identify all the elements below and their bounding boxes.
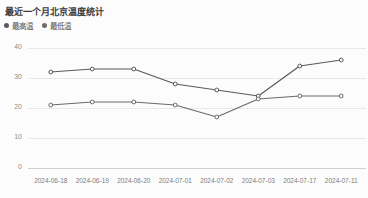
data-point[interactable]	[132, 100, 136, 104]
data-point[interactable]	[215, 115, 219, 119]
data-point[interactable]	[256, 97, 260, 101]
x-axis-tick-label: 2024-07-01	[159, 177, 192, 184]
data-point[interactable]	[298, 64, 302, 68]
legend-dot-icon	[42, 23, 47, 28]
y-axis-tick-label: 0	[4, 163, 22, 170]
data-point[interactable]	[49, 70, 53, 74]
x-axis-tick-label: 2024-06-19	[76, 177, 109, 184]
x-axis-line	[28, 168, 366, 169]
x-axis-tick-label: 2024-07-11	[325, 177, 358, 184]
data-point[interactable]	[215, 88, 219, 92]
x-axis-tick-label: 2024-07-03	[242, 177, 275, 184]
grid-line	[28, 108, 366, 109]
y-axis-tick-label: 10	[4, 133, 22, 140]
data-point[interactable]	[132, 67, 136, 71]
chart-title: 最近一个月北京温度统计	[5, 5, 104, 18]
legend-dot-icon	[4, 23, 9, 28]
chart-legend: 最高温 最低温	[4, 20, 71, 31]
y-axis-tick-label: 20	[4, 103, 22, 110]
data-point[interactable]	[173, 103, 177, 107]
data-point[interactable]	[49, 103, 53, 107]
y-axis-tick-label: 30	[4, 73, 22, 80]
x-axis-tick-label: 2024-06-18	[34, 177, 67, 184]
legend-label-min-temp: 最低温	[50, 20, 71, 31]
grid-line	[28, 48, 366, 49]
legend-item-min-temp[interactable]: 最低温	[42, 20, 71, 31]
data-point[interactable]	[339, 94, 343, 98]
data-point[interactable]	[256, 94, 260, 98]
data-point[interactable]	[298, 94, 302, 98]
grid-line	[28, 78, 366, 79]
data-point[interactable]	[90, 100, 94, 104]
grid-line	[28, 138, 366, 139]
legend-item-max-temp[interactable]: 最高温	[4, 20, 33, 31]
data-point[interactable]	[90, 67, 94, 71]
legend-label-max-temp: 最高温	[12, 20, 33, 31]
data-point[interactable]	[173, 82, 177, 86]
data-point[interactable]	[339, 58, 343, 62]
y-axis-tick-label: 40	[4, 43, 22, 50]
temperature-line-chart: 最近一个月北京温度统计 最高温 最低温 403020100 2024-06-18…	[0, 0, 368, 198]
x-axis-tick-label: 2024-07-02	[200, 177, 233, 184]
x-axis-tick-label: 2024-06-20	[117, 177, 150, 184]
series-line-min-temp	[51, 96, 342, 117]
x-axis-tick-label: 2024-07-17	[283, 177, 316, 184]
